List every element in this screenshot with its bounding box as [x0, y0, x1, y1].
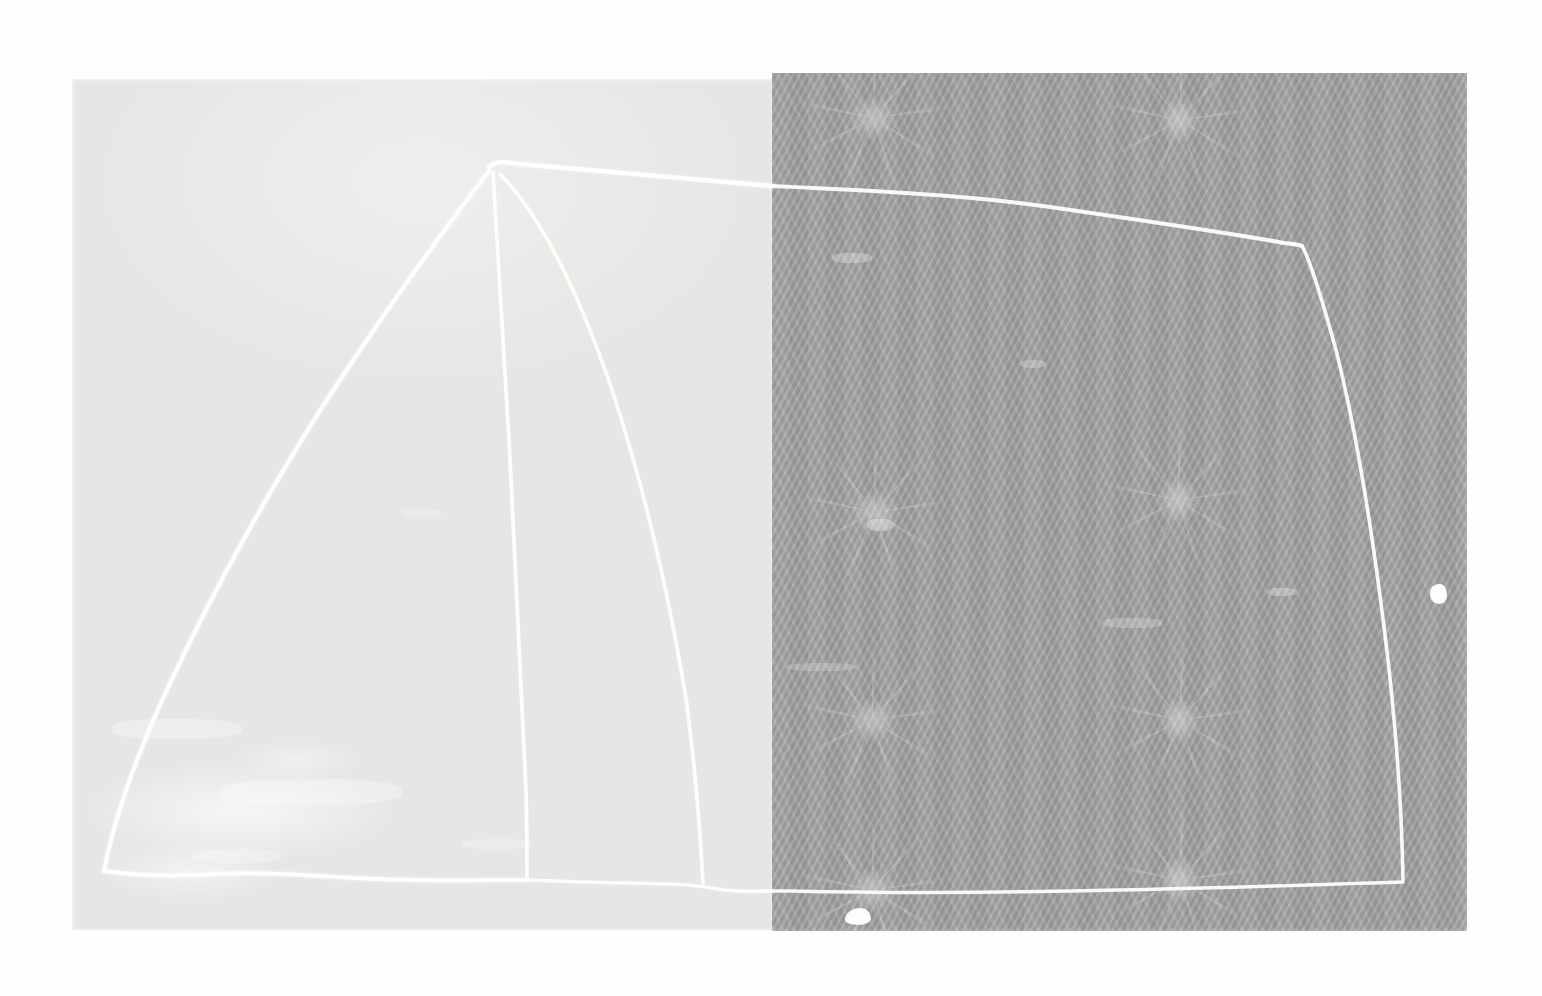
- rosette-2: [798, 73, 948, 193]
- scuff-b: [222, 779, 402, 805]
- right-panel-edge: [772, 73, 1467, 931]
- scuff-e: [402, 509, 442, 517]
- rosette-4: [1103, 425, 1253, 575]
- left-panel: [72, 79, 772, 930]
- scuff-r-d: [1020, 360, 1046, 368]
- rosette-8: [797, 815, 947, 931]
- right-panel-weave-texture: [772, 73, 1467, 931]
- scuff-r-e: [787, 663, 857, 671]
- left-panel-edge: [72, 79, 772, 930]
- scuff-d: [462, 839, 532, 849]
- scuff-r-a: [832, 253, 872, 263]
- rosette-7: [1105, 805, 1255, 931]
- left-panel-grain: [72, 79, 772, 930]
- right-panel: [772, 73, 1467, 931]
- scuff-a: [112, 719, 242, 739]
- rosette-5: [797, 645, 947, 795]
- scuff-r-f: [1102, 618, 1162, 628]
- rosette-3: [1105, 73, 1255, 195]
- rosette-1: [799, 437, 949, 587]
- scuff-r-c: [1267, 588, 1297, 596]
- scuff-c: [192, 849, 282, 863]
- scuff-r-b: [867, 519, 893, 531]
- right-panel-watermarks: [772, 73, 1467, 931]
- rosette-6: [1105, 645, 1255, 795]
- artwork-canvas: Sail Diptych Left panel — light ground R…: [0, 0, 1542, 996]
